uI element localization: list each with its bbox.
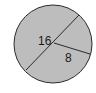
diameter-label: 16	[38, 34, 52, 48]
circle	[14, 5, 92, 83]
circle-diagram: 16 8	[0, 0, 96, 93]
radius-label: 8	[65, 51, 72, 65]
